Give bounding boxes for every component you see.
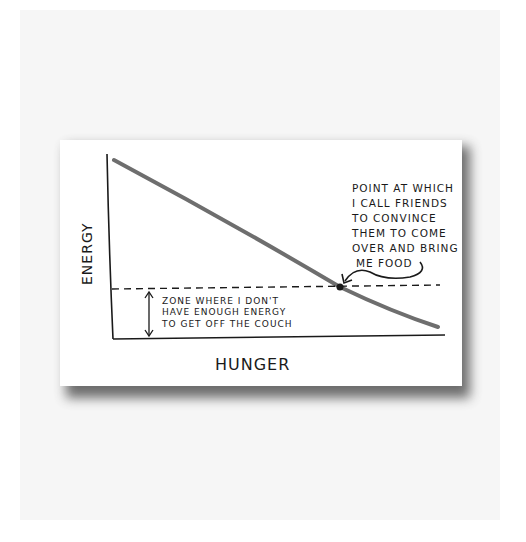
y-axis-label: ENERGY: [79, 222, 95, 285]
zone-annotation: ZONE WHERE I DON'T HAVE ENOUGH ENERGY TO…: [161, 296, 293, 329]
svg-text:POINT AT WHICH: POINT AT WHICH: [352, 182, 454, 194]
svg-text:ME FOOD: ME FOOD: [356, 257, 413, 269]
threshold-dashed-line: [112, 285, 440, 289]
point-annotation: POINT AT WHICH I CALL FRIENDS TO CONVINC…: [351, 182, 459, 269]
svg-text:I CALL FRIENDS: I CALL FRIENDS: [352, 197, 448, 209]
intersection-point: [337, 284, 344, 291]
svg-text:THEM TO COME: THEM TO COME: [351, 227, 447, 239]
x-axis: [113, 335, 445, 339]
zone-arrow-icon: [145, 292, 153, 336]
svg-text:TO GET OFF THE COUCH: TO GET OFF THE COUCH: [161, 319, 293, 329]
y-axis: [107, 154, 113, 339]
svg-text:ZONE WHERE I DON'T: ZONE WHERE I DON'T: [162, 296, 279, 306]
chart: ENERGY HUNGER POINT AT WHICH I CALL FRIE…: [0, 0, 526, 542]
svg-text:OVER AND BRING: OVER AND BRING: [352, 242, 459, 254]
x-axis-label: HUNGER: [215, 355, 290, 374]
svg-text:HAVE ENOUGH ENERGY: HAVE ENOUGH ENERGY: [162, 307, 286, 317]
svg-text:TO CONVINCE: TO CONVINCE: [351, 212, 437, 224]
